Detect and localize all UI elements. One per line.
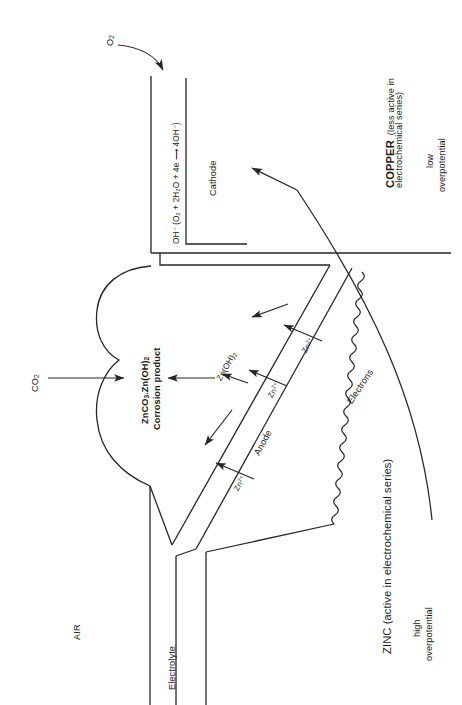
copper-overpotential-line2-text: overpotential — [437, 138, 447, 192]
label-cathode-reaction: OH⁻ (O₂ + 2H₂O + 4e ⟶ 4OH⁻) — [172, 122, 182, 244]
label-electrolyte: Electrolyte — [167, 646, 178, 690]
carbon-dioxide-text: CO2 — [30, 374, 40, 392]
cathode-connector — [160, 244, 340, 265]
oxygen-inflow-arrow — [118, 45, 163, 70]
label-carbon-dioxide: CO2 — [30, 374, 41, 392]
zinc-anode-strip — [172, 265, 364, 705]
label-oxygen: O2 — [105, 35, 116, 46]
corrosion-product-line1-text: ZnCO3.Zn(OH)2 — [140, 357, 150, 424]
label-cathode: Cathode — [208, 161, 219, 196]
label-copper-overpotential-line2: overpotential — [437, 138, 448, 192]
air-text: AIR — [72, 624, 82, 640]
zinc-name-note-text: ZINC (active in electrochemical series) — [381, 459, 393, 654]
copper-cathode-outline — [151, 76, 451, 253]
label-copper-note-line2: electrochemical series) — [394, 92, 405, 188]
oxygen-text: O2 — [105, 35, 115, 46]
corrosion-product-line2-text: Corrosion product — [152, 348, 162, 430]
label-zinc-overpotential-line1: high — [412, 619, 423, 637]
cathode-text: Cathode — [208, 161, 218, 196]
cathode-reaction-text: OH⁻ (O₂ + 2H₂O + 4e ⟶ 4OH⁻) — [171, 122, 181, 244]
copper-note-line2-text: electrochemical series) — [394, 92, 404, 188]
diagram-canvas: O2 OH⁻ (O₂ + 2H₂O + 4e ⟶ 4OH⁻) Cathode C… — [0, 0, 462, 705]
electrons-arrow — [252, 168, 432, 520]
label-copper-overpotential-line1: low — [425, 154, 436, 168]
label-air: AIR — [72, 624, 83, 640]
zinc-overpotential-line2-text: overpotential — [424, 607, 434, 661]
electrolyte-text: Electrolyte — [167, 646, 177, 690]
label-corrosion-product-line2: Corrosion product — [152, 348, 163, 430]
label-zinc-group: ZINC (active in electrochemical series) — [377, 459, 396, 654]
zinc-overpotential-line1-text: high — [412, 619, 422, 637]
label-corrosion-product-line1: ZnCO3.Zn(OH)2 — [140, 357, 151, 424]
label-zinc-overpotential-line2: overpotential — [424, 607, 435, 661]
copper-overpotential-line1-text: low — [425, 154, 435, 168]
